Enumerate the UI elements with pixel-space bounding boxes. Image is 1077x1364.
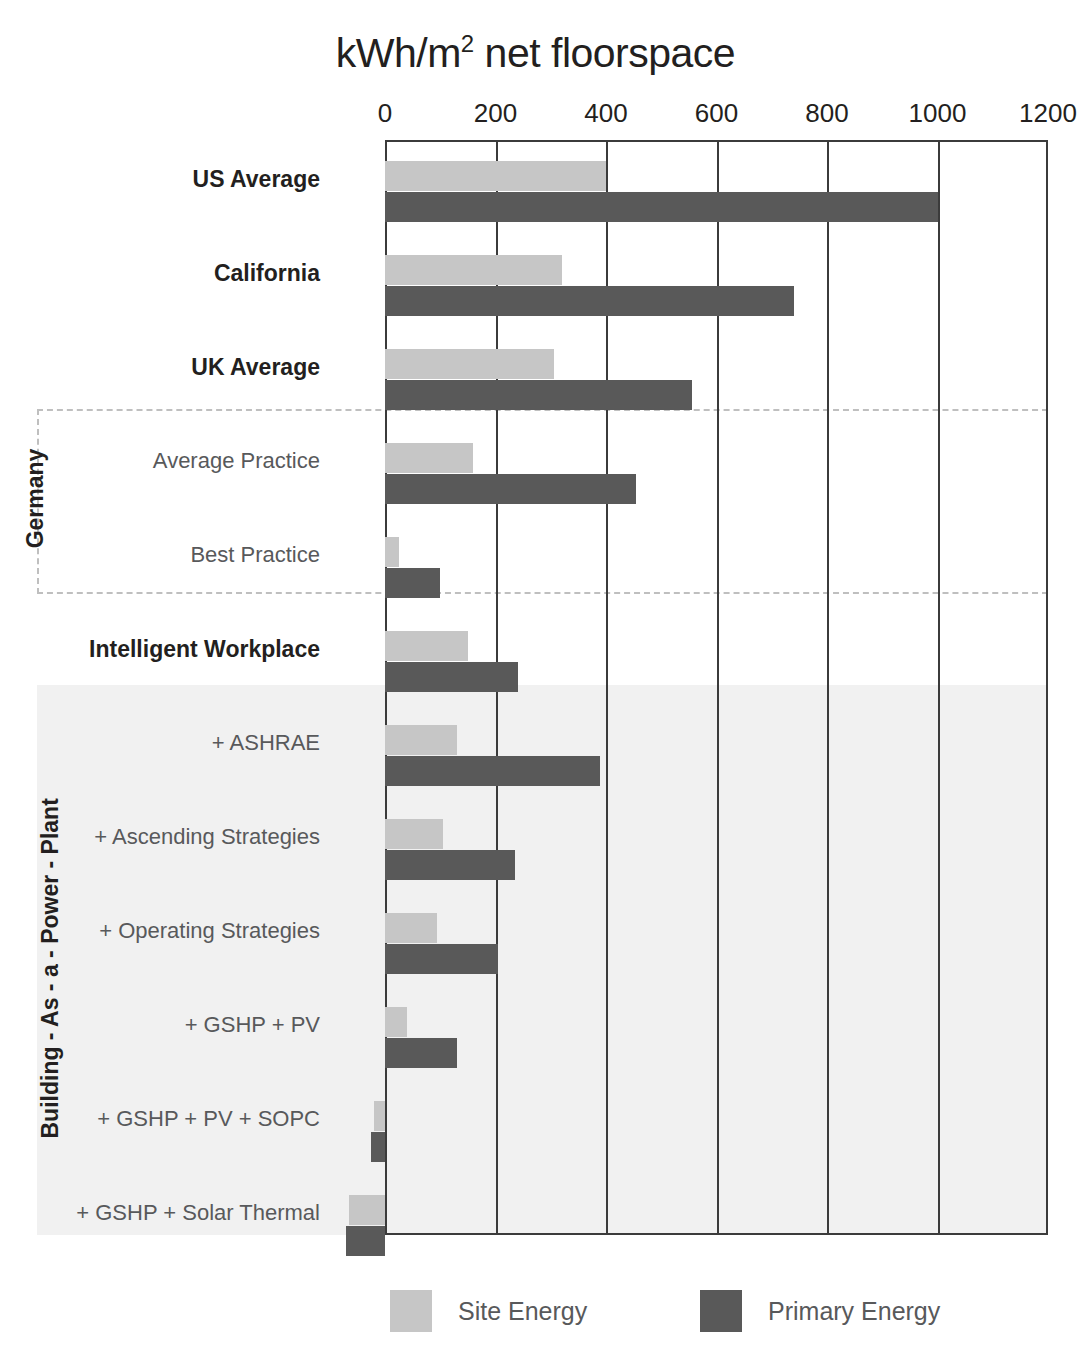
row-label-operating-strategies: + Operating Strategies: [99, 918, 320, 944]
bar-primary-operating-strategies: [385, 944, 498, 974]
bar-site-gshp-solar-thermal: [349, 1195, 385, 1225]
bar-primary-uk-average: [385, 380, 692, 410]
bar-site-ascending-strategies: [385, 819, 443, 849]
legend-item-primary-energy: Primary Energy: [700, 1290, 940, 1332]
bar-site-best-practice: [385, 537, 399, 567]
chart-row: + ASHRAE: [0, 705, 1071, 799]
bar-site-operating-strategies: [385, 913, 437, 943]
legend-item-site-energy: Site Energy: [390, 1290, 587, 1332]
bar-site-average-practice: [385, 443, 473, 473]
row-label-average-practice: Average Practice: [153, 448, 320, 474]
legend-swatch-site-energy: [390, 1290, 432, 1332]
legend-label-site-energy: Site Energy: [458, 1297, 587, 1326]
legend-swatch-primary-energy: [700, 1290, 742, 1332]
row-label-best-practice: Best Practice: [190, 542, 320, 568]
bar-primary-us-average: [385, 192, 938, 222]
chart-row: Best Practice: [0, 517, 1071, 611]
chart-row: + GSHP + PV + SOPC: [0, 1081, 1071, 1175]
bar-primary-gshp-solar-thermal: [346, 1226, 385, 1256]
bar-site-us-average: [385, 161, 606, 191]
bar-primary-best-practice: [385, 568, 440, 598]
bar-site-gshp-pv-sopc: [374, 1101, 385, 1131]
bar-primary-ascending-strategies: [385, 850, 515, 880]
chart-row: Average Practice: [0, 423, 1071, 517]
chart-row: + Operating Strategies: [0, 893, 1071, 987]
legend-label-primary-energy: Primary Energy: [768, 1297, 940, 1326]
row-label-ascending-strategies: + Ascending Strategies: [94, 824, 320, 850]
row-label-intelligent-workplace: Intelligent Workplace: [89, 636, 320, 663]
row-label-ashrae: + ASHRAE: [212, 730, 320, 756]
chart-row: Intelligent Workplace: [0, 611, 1071, 705]
bar-site-intelligent-workplace: [385, 631, 468, 661]
bar-primary-intelligent-workplace: [385, 662, 518, 692]
chart-legend: Site Energy Primary Energy: [0, 1290, 1071, 1340]
bar-site-uk-average: [385, 349, 554, 379]
row-label-uk-average: UK Average: [191, 354, 320, 381]
bar-site-ashrae: [385, 725, 457, 755]
chart-row: US Average: [0, 141, 1071, 235]
row-label-california: California: [214, 260, 320, 287]
row-label-gshp-solar-thermal: + GSHP + Solar Thermal: [76, 1200, 320, 1226]
row-label-us-average: US Average: [193, 166, 320, 193]
bar-primary-gshp-pv: [385, 1038, 457, 1068]
bar-site-california: [385, 255, 562, 285]
chart-row: + Ascending Strategies: [0, 799, 1071, 893]
bar-primary-california: [385, 286, 794, 316]
bar-site-gshp-pv: [385, 1007, 407, 1037]
chart-row: + GSHP + PV: [0, 987, 1071, 1081]
row-label-gshp-pv: + GSHP + PV: [185, 1012, 320, 1038]
chart-row: California: [0, 235, 1071, 329]
bar-primary-average-practice: [385, 474, 636, 504]
bar-primary-ashrae: [385, 756, 600, 786]
row-label-gshp-pv-sopc: + GSHP + PV + SOPC: [97, 1106, 320, 1132]
chart-row: + GSHP + Solar Thermal: [0, 1175, 1071, 1269]
bar-primary-gshp-pv-sopc: [371, 1132, 385, 1162]
chart-row: UK Average: [0, 329, 1071, 423]
